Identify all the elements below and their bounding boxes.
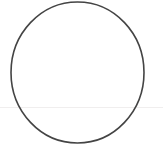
background-rect [0, 0, 163, 152]
figure-drawing [0, 0, 163, 152]
figure-canvas: Circle outline A single large dark-gray … [0, 0, 163, 152]
